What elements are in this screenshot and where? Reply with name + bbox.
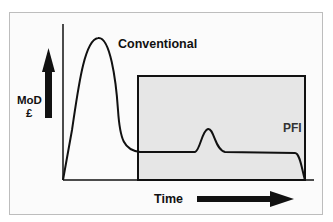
x-arrow-shaft bbox=[197, 196, 274, 202]
y-arrow-head-icon bbox=[42, 48, 55, 72]
pfi-label: PFI bbox=[283, 121, 302, 135]
diagram-canvas bbox=[0, 0, 333, 222]
pfi-band bbox=[138, 76, 305, 180]
y-arrow-shaft bbox=[45, 70, 52, 118]
x-axis-label: Time bbox=[154, 192, 183, 206]
conventional-label: Conventional bbox=[118, 37, 197, 51]
x-arrow-head-icon bbox=[270, 191, 294, 207]
y-axis-label-line1: MoD bbox=[17, 94, 42, 106]
y-axis-label-line2: £ bbox=[26, 107, 32, 119]
